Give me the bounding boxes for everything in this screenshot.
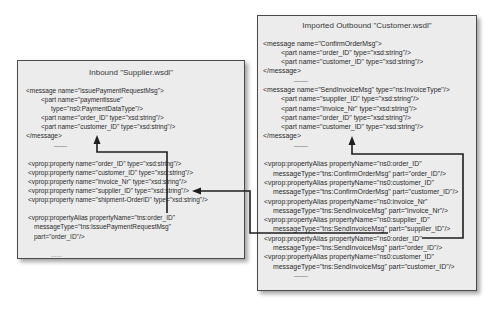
code-line: <vprop:property name="invoice_Nr" type="…	[18, 177, 244, 186]
code-line: <part name="order_ID" type="xsd:string"/…	[18, 113, 244, 122]
code-line: <vprop:propertyAlias propertyName="ns0:s…	[258, 215, 476, 224]
code-line: <vprop:property name="supplier_ID" type=…	[18, 186, 244, 195]
separator-dash: ——	[258, 141, 476, 150]
separator-dash: ——	[258, 271, 476, 280]
code-line: <vprop:property name="customer_ID" type=…	[18, 168, 244, 177]
code-line: part="order_ID"/>	[18, 232, 244, 241]
outbound-code-lines: <message name="ConfirmOrderMsg"> <part n…	[258, 39, 476, 281]
blank-line	[18, 204, 244, 213]
code-line: messageType="tns:SendInvoiceMsg" part="o…	[258, 243, 476, 252]
separator-dash: ——	[18, 141, 244, 150]
code-line: <vprop:propertyAlias propertyName="ns0:c…	[258, 178, 476, 187]
code-line: <vprop:property name="shipment-OrderID" …	[18, 195, 244, 204]
code-line: <vprop:property name="order_ID" type="xs…	[18, 159, 244, 168]
code-line: <part name="order_ID" type="xsd:string"/…	[258, 113, 476, 122]
code-line: <part name="order_ID" type="xsd:string"/…	[258, 48, 476, 57]
blank-line	[18, 150, 244, 159]
code-line: messageType="tns:SendInvoiceMsg" part="c…	[258, 262, 476, 271]
code-line: <vprop:propertyAlias propertyName="ns0:o…	[258, 234, 476, 243]
blank-line	[258, 150, 476, 159]
code-line: <vprop:propertyAlias propertyName="ns0:o…	[258, 159, 476, 168]
code-line: <vprop:propertyAlias propertyName="ns0:c…	[258, 252, 476, 261]
code-line: <part name="customer_ID" type="xsd:strin…	[258, 122, 476, 131]
code-line: type="ns0:PaymentDataType"/>	[18, 104, 244, 113]
code-line: <message name="ConfirmOrderMsg">	[258, 39, 476, 48]
code-line: messageType="tns:ConfirmOrderMsg" part="…	[258, 169, 476, 178]
ellipsis-line: ......	[18, 250, 244, 259]
outbound-box-title: Imported Outbound "Customer.wsdl"	[258, 21, 476, 30]
code-line: <message name="issuePaymentRequestMsg">	[18, 86, 244, 95]
code-line: <message name="SendInvoiceMsg" type="ns:…	[258, 85, 476, 94]
code-line: </message>	[258, 131, 476, 140]
separator-dash: ——	[258, 76, 476, 85]
code-line: <part name="invoice_Nr" type="xsd:string…	[258, 104, 476, 113]
inbound-code-lines: <message name="issuePaymentRequestMsg"> …	[18, 86, 244, 259]
code-line: <part name="customer_ID" type="xsd:strin…	[18, 122, 244, 131]
code-line: <vprop:propertyAlias propertyName="ns0:i…	[258, 197, 476, 206]
outbound-customer-wsdl-box: Imported Outbound "Customer.wsdl" <messa…	[257, 15, 477, 291]
inbound-supplier-wsdl-box: Inbound "Supplier.wsdl" <message name="i…	[17, 60, 245, 259]
code-line: messageType="tns:ConfirmOrderMsg" part="…	[258, 187, 476, 196]
inbound-box-title: Inbound "Supplier.wsdl"	[18, 68, 244, 77]
code-line: messageType="tns:IssuePaymentRequestMsg"	[18, 222, 244, 231]
code-line: </message>	[18, 131, 244, 140]
code-line: <part name="paymentissue"	[18, 95, 244, 104]
code-line: <vprop:propertyAlias propertyName="tns:o…	[18, 213, 244, 222]
blank-line	[18, 241, 244, 250]
code-line: <part name="supplier_ID" type="xsd:strin…	[258, 94, 476, 103]
code-line: messageType="tns:SendInvoiceMsg" part="i…	[258, 206, 476, 215]
code-line: </message>	[258, 66, 476, 75]
code-line: messageType="tns:SendInvoiceMsg" part="s…	[258, 224, 476, 233]
code-line: <part name="customer_ID" type="xsd:strin…	[258, 57, 476, 66]
